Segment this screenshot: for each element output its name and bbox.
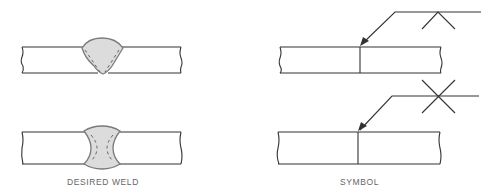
v-groove-symbol <box>422 12 455 29</box>
single-v-weld-symbol <box>279 12 481 73</box>
desired-weld-caption: DESIRED WELD <box>67 177 139 187</box>
single-v-weld-bead <box>82 38 123 74</box>
symbol-caption: SYMBOL <box>340 177 379 187</box>
leader-line <box>360 96 479 130</box>
leader-line <box>362 12 481 44</box>
double-v-weld-bead <box>84 126 120 169</box>
weld-diagram <box>0 0 495 196</box>
double-v-weld-symbol <box>277 80 479 164</box>
